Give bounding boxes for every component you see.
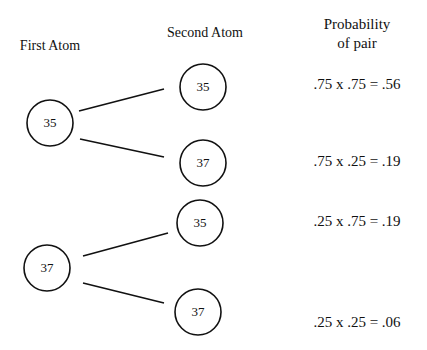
node-label-second-37-a: 37 — [183, 155, 223, 171]
probability-35-37: .75 x .25 = .19 — [297, 153, 417, 170]
node-label-first-37: 37 — [27, 260, 67, 276]
probability-header-line1: Probability — [307, 16, 407, 33]
probability-35-35: .75 x .75 = .56 — [297, 76, 417, 93]
probability-37-35: .25 x .75 = .19 — [297, 213, 417, 230]
node-label-first-35: 35 — [30, 115, 70, 131]
probability-37-37: .25 x .25 = .06 — [297, 314, 417, 331]
first-atom-header: First Atom — [0, 38, 100, 54]
node-label-second-35-a: 35 — [183, 79, 223, 95]
branch-37-35 — [83, 233, 168, 256]
branch-35-35 — [79, 89, 164, 111]
branch-37-37 — [83, 283, 164, 303]
node-label-second-37-b: 37 — [178, 304, 218, 320]
branch-35-37 — [80, 139, 164, 157]
probability-header-line2: of pair — [307, 35, 407, 52]
node-label-second-35-b: 35 — [180, 215, 220, 231]
second-atom-header: Second Atom — [150, 25, 260, 41]
